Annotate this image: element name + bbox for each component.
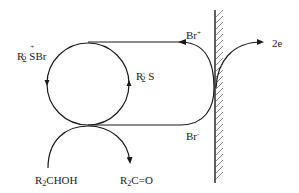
electron-arrow	[216, 42, 262, 88]
label-alcohol: R2CHOH	[35, 175, 78, 188]
label-electrons: 2e	[272, 38, 282, 49]
substrate-arc	[48, 126, 130, 168]
electrode-surface	[215, 10, 223, 183]
label-br-plus: Br+	[186, 30, 201, 41]
circle-arrow-up-icon	[45, 80, 50, 86]
br-minus-path	[88, 88, 214, 125]
reaction-diagram: R'2 + SBr R'2 S Br+ Br- 2e R2CHOH R2C=O	[0, 0, 299, 193]
label-ketone: R2C=O	[120, 175, 153, 188]
diagram-canvas	[0, 0, 299, 193]
label-br-minus: Br-	[186, 131, 199, 142]
label-sulfonium-bromide: R'2 + SBr	[17, 51, 46, 64]
circle-arrow-down-icon	[127, 80, 132, 86]
label-sulfide: R'2 S	[136, 71, 154, 84]
mediator-cycle-circle	[45, 43, 132, 125]
br-plus-arrow-icon	[178, 39, 186, 45]
